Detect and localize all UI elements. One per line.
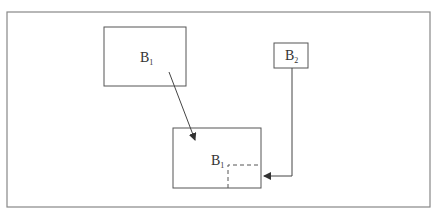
diagram-canvas: B1 B2 B1 — [0, 0, 439, 212]
box-b1-target: B1 — [173, 128, 261, 188]
box-b2-source: B2 — [274, 43, 308, 68]
arrow-b2-to-target — [264, 68, 292, 176]
box-b1-source: B1 — [104, 27, 186, 86]
